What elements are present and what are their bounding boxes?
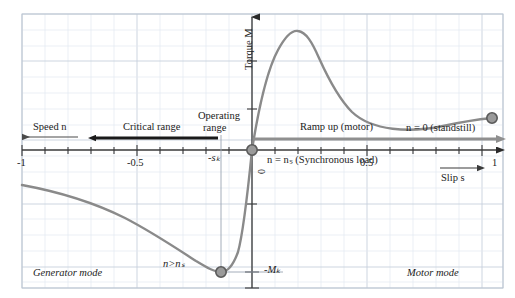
x-axis-label: Slip s xyxy=(441,172,465,183)
critical-range-annotation: Critical range xyxy=(123,121,180,132)
marker-breakdown-generator xyxy=(216,267,226,277)
plot-background xyxy=(22,14,503,288)
x-tick-label-one: 1 xyxy=(492,157,497,168)
x-tick-label-minus-one: -1 xyxy=(17,157,26,168)
generator-mode-label: Generator mode xyxy=(33,267,102,278)
marker-synchronous-point xyxy=(247,145,257,155)
chart-canvas xyxy=(0,0,515,298)
torque-slip-characteristic-figure: Torque M Slip s -1 -0.5 0 0.5 1 -sₖ -Mₖ … xyxy=(0,0,515,298)
y-axis-label: Torque M xyxy=(243,28,254,70)
marker-standstill-point xyxy=(487,113,497,123)
operating-range-annotation-line1: Operating xyxy=(198,110,240,121)
synchronous-annotation: n = nₛ (Synchronous load) xyxy=(267,154,378,165)
x-tick-label-minus-half: -0.5 xyxy=(127,157,144,168)
standstill-annotation: n = 0 (standstill) xyxy=(406,122,475,133)
speed-annotation: Speed n xyxy=(33,121,67,132)
breakdown-torque-label: -Mₖ xyxy=(264,264,280,275)
critical-slip-label: -sₖ xyxy=(208,152,220,163)
motor-mode-label: Motor mode xyxy=(407,267,459,278)
x-tick-label-zero: 0 xyxy=(257,169,268,174)
above-synchronous-annotation: n>nₛ xyxy=(163,258,185,269)
operating-range-annotation-line2: range xyxy=(203,122,226,133)
ramp-up-annotation: Ramp up (motor) xyxy=(300,121,373,132)
